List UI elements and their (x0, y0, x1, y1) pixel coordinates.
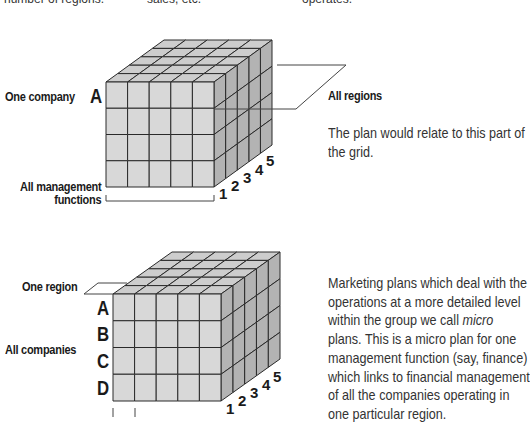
caption-line: within the group we call micro (328, 311, 530, 330)
row-letter-c: C (97, 349, 109, 373)
all-regions-label: All regions (328, 89, 382, 103)
one-company-label: One company (5, 90, 75, 104)
svg-text:5: 5 (266, 152, 274, 169)
label-line-2: functions (20, 194, 101, 207)
cube-bottom (113, 252, 280, 401)
svg-text:5: 5 (273, 368, 281, 385)
svg-text:2: 2 (231, 177, 239, 194)
all-companies-label: All companies (5, 343, 76, 357)
caption-line: Marketing plans which deal with the (328, 274, 530, 293)
caption-line: The plan would relate to this part of (328, 124, 525, 143)
cube-top (106, 40, 272, 187)
caption-line: management function (say, finance) (328, 349, 530, 368)
caption-line: operations at a more detailed level (328, 293, 530, 312)
row-letter-a: A (97, 296, 109, 320)
svg-text:3: 3 (243, 169, 251, 186)
all-management-functions-label: All management functions (20, 181, 101, 207)
caption-line: which links to financial management (328, 368, 530, 387)
svg-text:2: 2 (238, 392, 246, 409)
caption-text: within the group we call (328, 311, 462, 328)
one-region-label: One region (22, 280, 77, 294)
row-letter-b: B (97, 322, 109, 346)
management-functions-bracket (106, 195, 214, 201)
svg-text:1: 1 (219, 185, 227, 202)
svg-text:4: 4 (262, 376, 271, 393)
row-letter-d: D (97, 376, 109, 400)
caption-italic-micro: micro (462, 311, 493, 328)
svg-text:4: 4 (255, 161, 264, 178)
caption-line: the grid. (328, 143, 525, 162)
svg-text:1: 1 (226, 400, 234, 417)
bottom-caption: Marketing plans which deal with the oper… (328, 274, 530, 424)
top-caption: The plan would relate to this part of th… (328, 124, 525, 161)
caption-line: plans. This is a micro plan for one (328, 330, 530, 349)
svg-text:3: 3 (250, 384, 258, 401)
caption-line: of all the companies operating in (328, 386, 530, 405)
row-letter-a-top: A (90, 84, 102, 108)
caption-line: one particular region. (328, 405, 530, 424)
